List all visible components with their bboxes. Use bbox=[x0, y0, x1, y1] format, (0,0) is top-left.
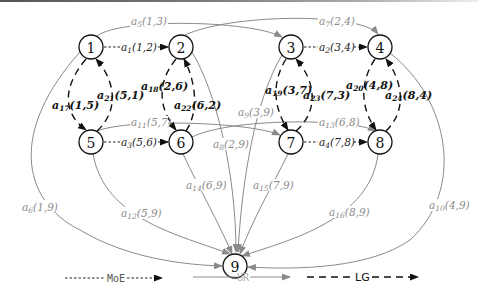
edge-label-a10: a10(4,9) bbox=[429, 199, 470, 213]
edge-a17 bbox=[68, 59, 86, 130]
edge-label-a8: a8(2,9) bbox=[213, 138, 249, 152]
svg-text:1: 1 bbox=[87, 40, 96, 56]
edge-a8 bbox=[192, 52, 236, 252]
edge-label-a9: a9(3,9) bbox=[238, 106, 274, 120]
node-5: 5 bbox=[79, 130, 103, 154]
node-4: 4 bbox=[368, 35, 392, 59]
svg-text:MoE: MoE bbox=[107, 273, 125, 284]
edge-label-a13: a13(6,8) bbox=[319, 116, 360, 130]
svg-text:UR: UR bbox=[237, 272, 250, 283]
node-6: 6 bbox=[169, 130, 193, 154]
edge-label-a6: a6(1,9) bbox=[22, 201, 58, 215]
edge-label-a16: a16(8,9) bbox=[329, 206, 370, 220]
edge-label-a14: a14(6,9) bbox=[186, 179, 227, 193]
svg-text:LG: LG bbox=[355, 271, 370, 284]
edge-label-a22: a22(6,2) bbox=[174, 99, 221, 113]
legend-ur: UR bbox=[193, 272, 290, 283]
svg-text:6: 6 bbox=[177, 135, 186, 151]
graph-diagram: a1(1,2) a2(3,4) a3(5,6) a4(7,8) a5(1,3) … bbox=[0, 0, 478, 297]
edge-a9 bbox=[238, 55, 282, 252]
edge-label-a11: a11(5,7) bbox=[131, 116, 172, 130]
node-3: 3 bbox=[279, 35, 303, 59]
svg-text:5: 5 bbox=[87, 135, 96, 151]
node-1: 1 bbox=[79, 35, 103, 59]
edge-a5 bbox=[97, 23, 282, 37]
node-2: 2 bbox=[169, 35, 193, 59]
svg-text:2: 2 bbox=[177, 40, 186, 56]
edge-label-a18: a18(2,6) bbox=[141, 80, 188, 94]
svg-text:3: 3 bbox=[287, 40, 296, 56]
edge-label-a3: a3(5,6) bbox=[121, 136, 157, 150]
edge-label-a4: a4(7,8) bbox=[319, 136, 355, 150]
edge-label-a24: a24(8,4) bbox=[385, 89, 432, 103]
edge-a22 bbox=[184, 59, 195, 131]
edge-label-a17: a17(1,5) bbox=[52, 99, 99, 113]
svg-text:7: 7 bbox=[287, 135, 296, 151]
edge-label-a23: a23(7,3) bbox=[303, 89, 350, 103]
edge-label-a5: a5(1,3) bbox=[131, 15, 167, 29]
edge-a12 bbox=[93, 154, 230, 254]
svg-text:4: 4 bbox=[376, 40, 385, 56]
edge-a20 bbox=[364, 59, 376, 130]
edge-label-a21: a21(5,1) bbox=[97, 89, 144, 103]
edge-label-a2: a2(3,4) bbox=[319, 41, 355, 55]
legend-lg: LG bbox=[307, 271, 418, 284]
svg-text:8: 8 bbox=[376, 135, 385, 151]
edge-label-a7: a7(2,4) bbox=[319, 15, 355, 29]
edge-label-a12: a12(5,9) bbox=[121, 207, 162, 221]
legend: MoE UR LG bbox=[65, 271, 418, 284]
node-8: 8 bbox=[368, 130, 392, 154]
edge-label-a15: a15(7,9) bbox=[253, 179, 294, 193]
edge-label-a1: a1(1,2) bbox=[121, 41, 157, 55]
node-7: 7 bbox=[279, 130, 303, 154]
edge-a15 bbox=[240, 154, 288, 254]
edge-a14 bbox=[183, 154, 232, 254]
legend-moe: MoE bbox=[65, 273, 162, 284]
